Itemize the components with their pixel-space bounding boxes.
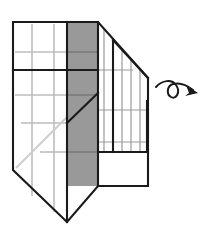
figure-canvas xyxy=(0,0,207,233)
shaded-middle-face xyxy=(67,22,98,186)
rotation-arrow xyxy=(156,81,198,98)
rotation-arrowhead-icon xyxy=(185,85,198,96)
right-bottom-face xyxy=(98,152,148,186)
mental-rotation-figure xyxy=(0,0,207,233)
